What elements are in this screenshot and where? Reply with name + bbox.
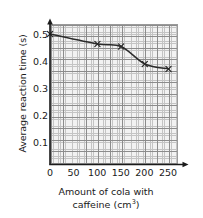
x-axis-title: Amount of cola with caffeine (cm3): [26, 186, 186, 211]
x-tick-label: 250: [153, 167, 183, 178]
y-tick-label: 0.5: [22, 30, 48, 40]
data-line: [50, 34, 169, 69]
x-axis-title-line2-close: ): [136, 199, 140, 210]
data-series-layer: [50, 24, 178, 164]
y-tick-label: 0.1: [22, 138, 48, 148]
chart-figure: Average reaction time (s) 0.5 0.4 0.3 0.…: [0, 0, 203, 218]
plot-area: [50, 24, 178, 164]
x-axis-title-line2-text: caffeine (cm: [72, 199, 131, 210]
y-tick-label: 0.4: [22, 57, 48, 67]
x-axis-tick-labels: 0 50 100 150 200 250: [0, 167, 203, 181]
y-tick-label: 0.3: [22, 84, 48, 94]
y-tick-label: 0.2: [22, 111, 48, 121]
x-axis-title-line1: Amount of cola with: [58, 186, 153, 197]
